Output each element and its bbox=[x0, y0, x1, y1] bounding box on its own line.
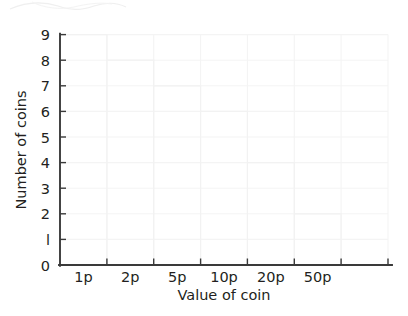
x-tick-label: 2p bbox=[121, 269, 139, 285]
x-tick-label: 5p bbox=[168, 269, 186, 285]
horizontal-gridlines bbox=[60, 35, 388, 240]
vertical-gridlines bbox=[60, 35, 388, 265]
y-axis-tick-labels: 0 l 2 3 4 5 6 7 8 9 bbox=[41, 27, 50, 273]
y-tick-label: 3 bbox=[41, 181, 50, 197]
x-axis-title: Value of coin bbox=[177, 287, 270, 303]
chart-plot-area: 0 l 2 3 4 5 6 7 8 9 1p 2p 5p 10p 20p 50p… bbox=[0, 0, 408, 316]
x-tick-label: 10p bbox=[210, 269, 238, 285]
y-tick-label: l bbox=[46, 232, 50, 248]
coin-bar-chart-figure: 0 l 2 3 4 5 6 7 8 9 1p 2p 5p 10p 20p 50p… bbox=[0, 0, 408, 316]
y-tick-label: 8 bbox=[41, 53, 50, 69]
y-tick-label: 7 bbox=[41, 78, 50, 94]
y-tick-label: 4 bbox=[41, 155, 50, 171]
x-axis-tick-labels: 1p 2p 5p 10p 20p 50p bbox=[74, 269, 331, 285]
y-tick-label: 2 bbox=[41, 206, 50, 222]
x-axis-ticks bbox=[107, 259, 388, 266]
x-tick-label: 20p bbox=[257, 269, 285, 285]
y-tick-label: 0 bbox=[41, 258, 50, 274]
x-tick-label: 1p bbox=[74, 269, 92, 285]
y-tick-label: 5 bbox=[41, 130, 50, 146]
y-axis-title: Number of coins bbox=[13, 90, 29, 209]
y-tick-label: 6 bbox=[41, 104, 50, 120]
x-tick-label: 50p bbox=[304, 269, 332, 285]
y-tick-label: 9 bbox=[41, 27, 50, 43]
